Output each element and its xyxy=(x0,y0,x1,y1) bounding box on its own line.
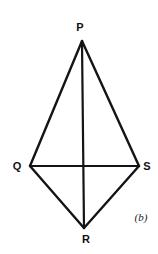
kite-diagonals xyxy=(30,41,139,228)
edge-PQ xyxy=(30,41,82,166)
vertex-label-s: S xyxy=(143,161,150,172)
edge-SR xyxy=(84,166,139,228)
vertex-label-p: P xyxy=(76,22,83,33)
edge-QR xyxy=(30,166,84,228)
vertex-label-q: Q xyxy=(13,161,22,172)
kite-figure: P Q S R (b) xyxy=(0,0,158,254)
vertex-label-r: R xyxy=(82,234,90,245)
edge-PS xyxy=(82,41,139,166)
figure-caption: (b) xyxy=(135,212,148,223)
diagonal-PR xyxy=(82,41,84,228)
